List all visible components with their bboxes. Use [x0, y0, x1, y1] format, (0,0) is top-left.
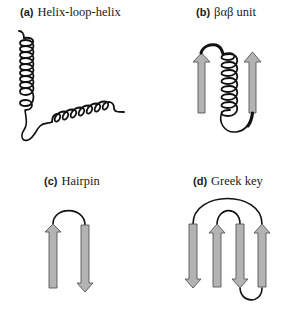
protein-motif-figure: (a)Helix-loop-helix (b)βαβ unit (c)Hairp… — [0, 0, 282, 317]
motif-drawings: .strand { fill: #b3b3b3; stroke: #555; s… — [0, 0, 282, 317]
beta-strand-down-arrow-icon — [232, 224, 248, 288]
beta-alpha-beta-diagram — [193, 45, 261, 132]
beta-strand-up-arrow-icon — [209, 224, 225, 287]
connecting-loop-icon — [201, 45, 223, 54]
beta-strand-up-arrow-icon — [193, 53, 210, 113]
greek-key-diagram — [185, 199, 270, 300]
beta-strand-up-arrow-icon — [244, 52, 261, 113]
beta-strand-up-arrow-icon — [45, 224, 61, 288]
hairpin-diagram — [45, 211, 93, 292]
connecting-loop-icon — [217, 211, 240, 225]
beta-strand-down-arrow-icon — [77, 225, 93, 292]
alpha-helix-icon — [221, 53, 237, 116]
connecting-loop-icon — [22, 110, 52, 140]
horizontal-helix-icon — [52, 102, 124, 123]
vertical-helix-icon — [19, 31, 34, 110]
beta-strand-down-arrow-icon — [185, 224, 201, 288]
connecting-loop-icon — [240, 287, 262, 300]
beta-strand-up-arrow-icon — [254, 224, 270, 287]
connecting-loop-icon — [53, 211, 85, 225]
helix-loop-helix-diagram — [19, 31, 124, 140]
